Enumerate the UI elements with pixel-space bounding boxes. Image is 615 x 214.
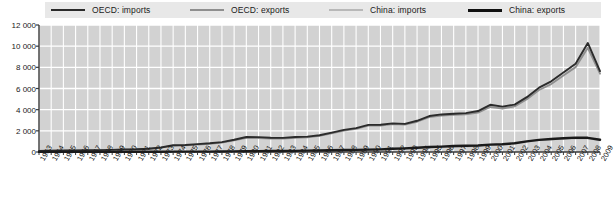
legend-label: OECD: exports xyxy=(231,5,289,15)
legend-label: OECD: imports xyxy=(92,5,150,15)
y-axis-tick-label: 4 000 xyxy=(16,105,36,114)
legend-label: China: imports xyxy=(370,5,426,15)
legend-item-oecd-imports[interactable]: OECD: imports xyxy=(45,5,184,15)
line-swatch-icon xyxy=(468,9,502,12)
legend-item-china-imports[interactable]: China: imports xyxy=(323,5,462,15)
line-swatch-icon xyxy=(51,9,85,11)
plot-area-wrapper: 02 0004 0006 0008 00010 00012 000 196319… xyxy=(0,18,604,196)
y-axis-tick-label: 6 000 xyxy=(16,84,36,93)
y-axis-tick-label: 8 000 xyxy=(16,63,36,72)
plot-svg xyxy=(0,18,604,158)
x-axis-tick-labels: 1963196419651966196719681969197019711972… xyxy=(0,154,604,214)
legend-item-oecd-exports[interactable]: OECD: exports xyxy=(184,5,323,15)
y-axis-tick-label: 10 000 xyxy=(12,42,36,51)
y-axis-tick-label: 2 000 xyxy=(16,126,36,135)
y-axis-tick-labels: 02 0004 0006 0008 00010 00012 000 xyxy=(0,18,36,158)
chart-legend: OECD: imports OECD: exports China: impor… xyxy=(45,2,601,18)
line-swatch-icon xyxy=(190,9,224,11)
legend-item-china-exports[interactable]: China: exports xyxy=(462,5,601,15)
y-axis-tick-label: 12 000 xyxy=(12,21,36,30)
line-swatch-icon xyxy=(329,9,363,11)
legend-label: China: exports xyxy=(509,5,565,15)
